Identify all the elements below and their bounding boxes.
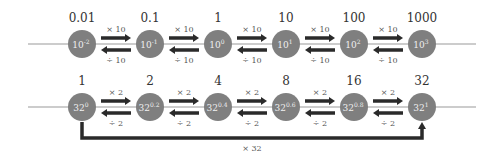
node-value-label: 2 bbox=[146, 74, 154, 88]
bracket-label: × 32 bbox=[242, 144, 261, 153]
forward-label: × 2 bbox=[109, 88, 123, 97]
node: 320.44 bbox=[204, 74, 232, 121]
node-value-label: 10 bbox=[278, 11, 293, 25]
node: 3201 bbox=[68, 74, 96, 121]
backward-arrowhead bbox=[305, 109, 311, 117]
backward-label: ÷ 2 bbox=[313, 119, 327, 128]
node: 1001 bbox=[204, 11, 232, 58]
conversion-arrows: × 10÷ 10 bbox=[373, 25, 403, 65]
conversion-arrows: × 10÷ 10 bbox=[101, 25, 131, 65]
forward-label: × 10 bbox=[106, 25, 125, 34]
forward-arrowhead bbox=[193, 97, 199, 105]
forward-label: × 2 bbox=[177, 88, 191, 97]
forward-label: × 2 bbox=[381, 88, 395, 97]
node: 320.22 bbox=[136, 74, 164, 121]
node: 102100 bbox=[340, 11, 368, 58]
forward-label: × 10 bbox=[310, 25, 329, 34]
node-value-label: 1 bbox=[78, 74, 86, 88]
backward-arrowhead bbox=[305, 46, 311, 54]
row-powers-of-ten: × 10÷ 10× 10÷ 10× 10÷ 10× 10÷ 10× 10÷ 10… bbox=[28, 11, 476, 65]
conversion-arrows: × 10÷ 10 bbox=[169, 25, 199, 65]
forward-arrowhead bbox=[329, 97, 335, 105]
backward-arrowhead bbox=[169, 46, 175, 54]
backward-label: ÷ 10 bbox=[106, 56, 125, 65]
node: 1031000 bbox=[407, 11, 438, 58]
backward-label: ÷ 2 bbox=[177, 119, 191, 128]
node-value-label: 1000 bbox=[407, 11, 438, 25]
node-value-label: 16 bbox=[346, 74, 361, 88]
forward-label: × 2 bbox=[313, 88, 327, 97]
node: 10-10.1 bbox=[136, 11, 164, 58]
conversion-arrows: × 10÷ 10 bbox=[305, 25, 335, 65]
forward-arrowhead bbox=[329, 34, 335, 42]
backward-label: ÷ 10 bbox=[378, 56, 397, 65]
node: 320.816 bbox=[340, 74, 368, 121]
bracket-arrowhead bbox=[418, 122, 426, 129]
conversion-arrows: × 2÷ 2 bbox=[101, 88, 131, 128]
backward-label: ÷ 2 bbox=[109, 119, 123, 128]
backward-arrowhead bbox=[169, 109, 175, 117]
node-value-label: 1 bbox=[214, 11, 222, 25]
node-value-label: 8 bbox=[282, 74, 290, 88]
backward-arrowhead bbox=[373, 109, 379, 117]
backward-label: ÷ 2 bbox=[381, 119, 395, 128]
backward-arrowhead bbox=[101, 46, 107, 54]
forward-arrowhead bbox=[125, 97, 131, 105]
backward-label: ÷ 2 bbox=[245, 119, 259, 128]
forward-arrowhead bbox=[397, 97, 403, 105]
conversion-arrows: × 2÷ 2 bbox=[237, 88, 267, 128]
node-value-label: 0.1 bbox=[140, 11, 159, 25]
node-value-label: 0.01 bbox=[69, 11, 96, 25]
node: 320.68 bbox=[272, 74, 300, 121]
forward-label: × 10 bbox=[174, 25, 193, 34]
node: 32132 bbox=[408, 74, 436, 121]
conversion-arrows: × 2÷ 2 bbox=[373, 88, 403, 128]
backward-arrowhead bbox=[373, 46, 379, 54]
backward-arrowhead bbox=[237, 109, 243, 117]
node: 10-20.01 bbox=[68, 11, 96, 58]
row-powers-of-thirty-two: × 2÷ 2× 2÷ 2× 2÷ 2× 2÷ 2× 2÷ 23201320.22… bbox=[28, 74, 476, 128]
forward-label: × 2 bbox=[245, 88, 259, 97]
backward-label: ÷ 10 bbox=[242, 56, 261, 65]
conversion-arrows: × 10÷ 10 bbox=[237, 25, 267, 65]
forward-label: × 10 bbox=[378, 25, 397, 34]
node-value-label: 4 bbox=[214, 74, 222, 88]
backward-label: ÷ 10 bbox=[310, 56, 329, 65]
forward-label: × 10 bbox=[242, 25, 261, 34]
node: 10110 bbox=[272, 11, 300, 58]
backward-arrowhead bbox=[101, 109, 107, 117]
node-value-label: 32 bbox=[414, 74, 429, 88]
backward-label: ÷ 10 bbox=[174, 56, 193, 65]
conversion-arrows: × 2÷ 2 bbox=[305, 88, 335, 128]
forward-arrowhead bbox=[397, 34, 403, 42]
backward-arrowhead bbox=[237, 46, 243, 54]
forward-arrowhead bbox=[261, 34, 267, 42]
forward-arrowhead bbox=[193, 34, 199, 42]
conversion-arrows: × 2÷ 2 bbox=[169, 88, 199, 128]
forward-arrowhead bbox=[125, 34, 131, 42]
node-value-label: 100 bbox=[343, 11, 366, 25]
powers-diagram: × 10÷ 10× 10÷ 10× 10÷ 10× 10÷ 10× 10÷ 10… bbox=[0, 0, 500, 159]
forward-arrowhead bbox=[261, 97, 267, 105]
